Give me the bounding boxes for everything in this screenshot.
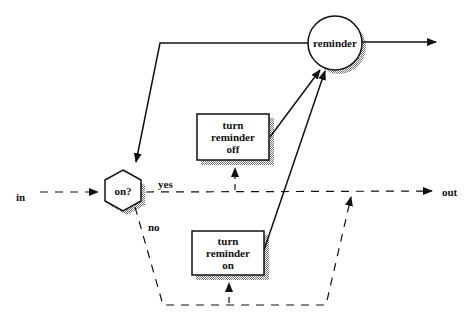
- yes-to-out-arrow: [146, 191, 432, 192]
- turn-on-label: turn reminder on: [192, 235, 264, 271]
- out-label: out: [442, 186, 457, 198]
- yes-label: yes: [158, 178, 173, 190]
- no-label: no: [148, 221, 160, 233]
- turn-off-label: turn reminder off: [197, 119, 269, 155]
- in-label: in: [16, 191, 25, 203]
- diagram-lines: [0, 0, 464, 323]
- decision-label: on?: [105, 185, 141, 197]
- off-to-reminder-arrow: [270, 70, 320, 137]
- reminder-label: reminder: [308, 37, 362, 49]
- flow-diagram: reminder on? turn reminder off turn remi…: [0, 0, 464, 323]
